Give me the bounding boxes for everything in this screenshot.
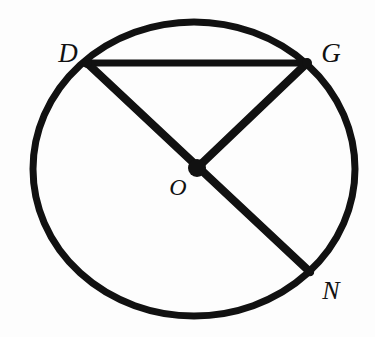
vertex-label-o: O [169, 175, 186, 199]
vertex-label-d: D [58, 40, 78, 67]
vertex-label-g: G [321, 40, 341, 67]
vertex-label-n: N [322, 278, 339, 304]
vertex-point-g [302, 58, 312, 68]
vertex-point-d [82, 58, 92, 68]
vertex-point-n [306, 268, 314, 276]
geometry-canvas [0, 0, 375, 337]
geometry-figure: D G O N [0, 0, 375, 337]
radius-og [197, 63, 307, 168]
center-point-o [188, 159, 206, 177]
